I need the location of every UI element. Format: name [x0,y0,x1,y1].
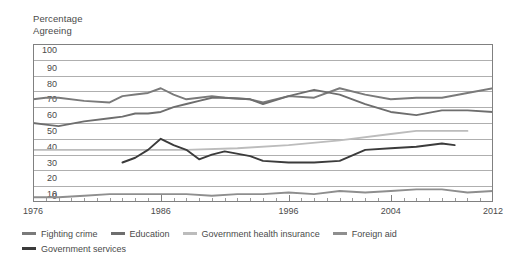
legend-item-government-health-insurance[interactable]: Government health insurance [183,229,320,239]
legend-label: Government services [41,244,126,254]
legend-item-foreign-aid[interactable]: Foreign aid [333,229,397,239]
legend-item-education[interactable]: Education [111,229,170,239]
x-tick-label: 1976 [23,206,43,216]
chart-container: PercentageAgreeing 100908070605040302010… [0,0,510,264]
legend-item-fighting-crime[interactable]: Fighting crime [22,229,98,239]
series-line-education [33,90,493,126]
axis-title-line2: Agreeing [33,25,72,36]
x-tick-label: 1986 [151,206,171,216]
chart-axis-title: PercentageAgreeing [33,13,83,36]
series-lines [33,88,493,197]
legend-swatch-icon [111,232,125,235]
chart-svg [33,44,493,202]
series-line-fighting-crime [33,88,493,102]
x-tick-label: 2004 [381,206,401,216]
x-axis-ticks [34,195,494,202]
legend-swatch-icon [22,247,36,250]
legend-swatch-icon [183,232,197,235]
legend-label: Education [130,229,170,239]
gridlines [33,45,493,203]
x-tick-label: 1996 [279,206,299,216]
legend-label: Foreign aid [352,229,397,239]
legend-row-primary: Fighting crimeEducationGovernment health… [22,226,500,241]
plot-border [34,45,493,202]
legend-swatch-icon [22,232,36,235]
legend-label: Government health insurance [202,229,320,239]
legend-row-secondary: Government services [22,241,500,256]
legend-item-government-services[interactable]: Government services [22,244,126,254]
legend-label: Fighting crime [41,229,98,239]
series-line-foreign-aid [33,189,493,197]
axis-title-line1: Percentage [33,13,83,24]
plot-area [33,44,493,202]
x-tick-label: 2012 [483,206,503,216]
legend-swatch-icon [333,232,347,235]
chart-legend: Fighting crimeEducationGovernment health… [22,226,500,256]
